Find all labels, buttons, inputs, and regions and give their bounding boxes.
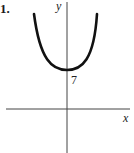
y-axis-label: y	[56, 0, 61, 14]
graph-canvas	[0, 0, 134, 153]
x-axis-label: x	[123, 111, 128, 126]
y-intercept-label: 7	[71, 73, 77, 88]
parabola-curve	[34, 14, 97, 70]
